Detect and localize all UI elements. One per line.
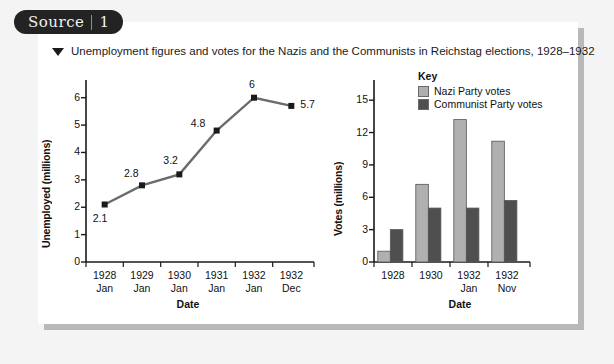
bar-chart-y-tick: 0 [338, 255, 368, 267]
line-chart-x-tick: 1931Jan [198, 269, 235, 295]
charts-container: Unemployed (millions) 0123456 1928Jan192… [38, 66, 578, 324]
x-tick-year: 1932 [488, 269, 526, 282]
bar-chart-x-tick: 1932Jan [450, 269, 488, 295]
x-tick-month: Dec [273, 282, 310, 295]
source-badge-label: Source [28, 15, 84, 30]
x-tick-month: Jan [86, 282, 123, 295]
line-chart-point-label: 3.2 [163, 154, 178, 166]
line-chart-x-tick: 1932Dec [273, 269, 310, 295]
line-chart-y-tick: 2 [52, 200, 80, 212]
x-tick-year: 1928 [86, 269, 123, 282]
line-chart-y-tick: 5 [52, 118, 80, 130]
bar-chart-y-tick: 9 [338, 158, 368, 170]
bar-chart-y-tick: 15 [338, 93, 368, 105]
x-tick-month: Jan [235, 282, 272, 295]
bar-chart-y-tick: 3 [338, 223, 368, 235]
bar-chart-x-tick: 1928 [374, 269, 412, 282]
line-chart-y-tick: 4 [52, 145, 80, 157]
line-chart-y-tick: 1 [52, 228, 80, 240]
line-chart-point-label: 6 [249, 78, 255, 90]
x-tick-month: Nov [488, 282, 526, 295]
bar-chart-x-axis-title: Date [360, 298, 560, 310]
bar-chart-x-tick: 1932Nov [488, 269, 526, 295]
x-tick-year: 1932 [273, 269, 310, 282]
source-badge-divider [91, 15, 92, 30]
line-chart-y-tick: 3 [52, 173, 80, 185]
votes-bar-chart: Votes (millions) Key Nazi Party votes Co… [330, 66, 578, 324]
x-tick-year: 1932 [450, 269, 488, 282]
x-tick-year: 1929 [123, 269, 160, 282]
source-card-page: Source 1 Unemployment figures and votes … [0, 0, 614, 364]
line-chart-x-tick: 1929Jan [123, 269, 160, 295]
x-tick-year: 1930 [161, 269, 198, 282]
line-chart-point-label: 5.7 [300, 98, 315, 110]
source-badge: Source 1 [14, 10, 123, 34]
line-chart-point-label: 4.8 [191, 117, 206, 129]
bar-chart-y-tick: 6 [338, 190, 368, 202]
line-chart-y-tick: 0 [52, 255, 80, 267]
line-chart-point-label: 2.1 [93, 212, 108, 224]
triangle-down-icon [52, 48, 64, 56]
x-tick-year: 1928 [374, 269, 412, 282]
caption-text: Unemployment figures and votes for the N… [71, 44, 595, 58]
x-tick-month: Jan [198, 282, 235, 295]
x-tick-year: 1932 [235, 269, 272, 282]
source-badge-number: 1 [99, 15, 109, 30]
line-chart-x-tick: 1932Jan [235, 269, 272, 295]
x-tick-month: Jan [161, 282, 198, 295]
x-tick-year: 1931 [198, 269, 235, 282]
x-tick-year: 1930 [412, 269, 450, 282]
unemployment-line-chart: Unemployed (millions) 0123456 1928Jan192… [38, 66, 328, 324]
caption: Unemployment figures and votes for the N… [52, 44, 595, 58]
line-chart-y-tick: 6 [52, 91, 80, 103]
x-tick-month: Jan [450, 282, 488, 295]
line-chart-x-tick: 1928Jan [86, 269, 123, 295]
line-chart-x-axis-title: Date [68, 298, 308, 310]
line-chart-point-label: 2.8 [124, 167, 139, 179]
bar-chart-y-tick: 12 [338, 126, 368, 138]
bar-chart-x-tick: 1930 [412, 269, 450, 282]
line-chart-x-tick: 1930Jan [161, 269, 198, 295]
x-tick-month: Jan [123, 282, 160, 295]
